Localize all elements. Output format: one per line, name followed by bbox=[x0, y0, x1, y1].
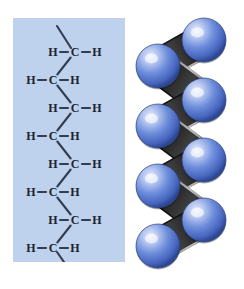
bond-c-c bbox=[57, 142, 70, 159]
atom-label-carbon: C bbox=[49, 129, 58, 143]
space-filling-model-panel bbox=[128, 8, 244, 284]
atom-sphere bbox=[182, 138, 226, 184]
atom-label-hydrogen: H bbox=[70, 241, 80, 255]
atom-sphere bbox=[136, 224, 180, 270]
atom-label-carbon: C bbox=[49, 185, 58, 199]
atom-label-hydrogen: H bbox=[92, 213, 102, 227]
atom-sphere bbox=[182, 18, 226, 64]
atom-sphere bbox=[182, 198, 226, 244]
atom-label-carbon: C bbox=[49, 73, 58, 87]
structural-formula-panel: HCHHCHHCHHCHHCHHCHHCHHCH bbox=[13, 18, 125, 262]
atom-sphere bbox=[136, 44, 180, 90]
atom-sphere bbox=[136, 104, 180, 150]
bond-c-c bbox=[57, 198, 70, 215]
bond-c-c bbox=[57, 58, 70, 75]
atom-label-hydrogen: H bbox=[26, 73, 36, 87]
atom-label-hydrogen: H bbox=[26, 185, 36, 199]
atom-label-hydrogen: H bbox=[48, 213, 58, 227]
atom-label-hydrogen: H bbox=[26, 129, 36, 143]
bond-c-c bbox=[57, 226, 70, 243]
atom-label-carbon: C bbox=[71, 157, 80, 171]
bond-top-stub bbox=[57, 26, 71, 48]
atom-label-carbon: C bbox=[71, 213, 80, 227]
atom-label-carbon: C bbox=[71, 45, 80, 59]
atom-sphere bbox=[182, 78, 226, 124]
atom-label-hydrogen: H bbox=[48, 157, 58, 171]
figure-root: HCHHCHHCHHCHHCHHCHHCHHCH bbox=[0, 0, 244, 289]
atom-label-carbon: C bbox=[71, 101, 80, 115]
atom-label-hydrogen: H bbox=[48, 45, 58, 59]
atom-label-hydrogen: H bbox=[70, 73, 80, 87]
atom-label-hydrogen: H bbox=[70, 185, 80, 199]
atom-label-hydrogen: H bbox=[92, 45, 102, 59]
atom-label-carbon: C bbox=[49, 241, 58, 255]
atom-sphere bbox=[136, 164, 180, 210]
atom-label-hydrogen: H bbox=[26, 241, 36, 255]
bond-lines-group bbox=[38, 26, 90, 262]
structural-formula-diagram: HCHHCHHCHHCHHCHHCHHCHHCH bbox=[13, 18, 125, 262]
bond-c-c bbox=[57, 170, 70, 187]
atom-label-hydrogen: H bbox=[70, 129, 80, 143]
bond-c-c bbox=[57, 114, 70, 131]
atom-label-hydrogen: H bbox=[92, 157, 102, 171]
bond-c-c bbox=[57, 86, 70, 103]
atom-label-hydrogen: H bbox=[92, 101, 102, 115]
atom-label-hydrogen: H bbox=[48, 101, 58, 115]
space-filling-model-diagram bbox=[128, 8, 244, 284]
bond-bottom-stub bbox=[57, 252, 71, 262]
